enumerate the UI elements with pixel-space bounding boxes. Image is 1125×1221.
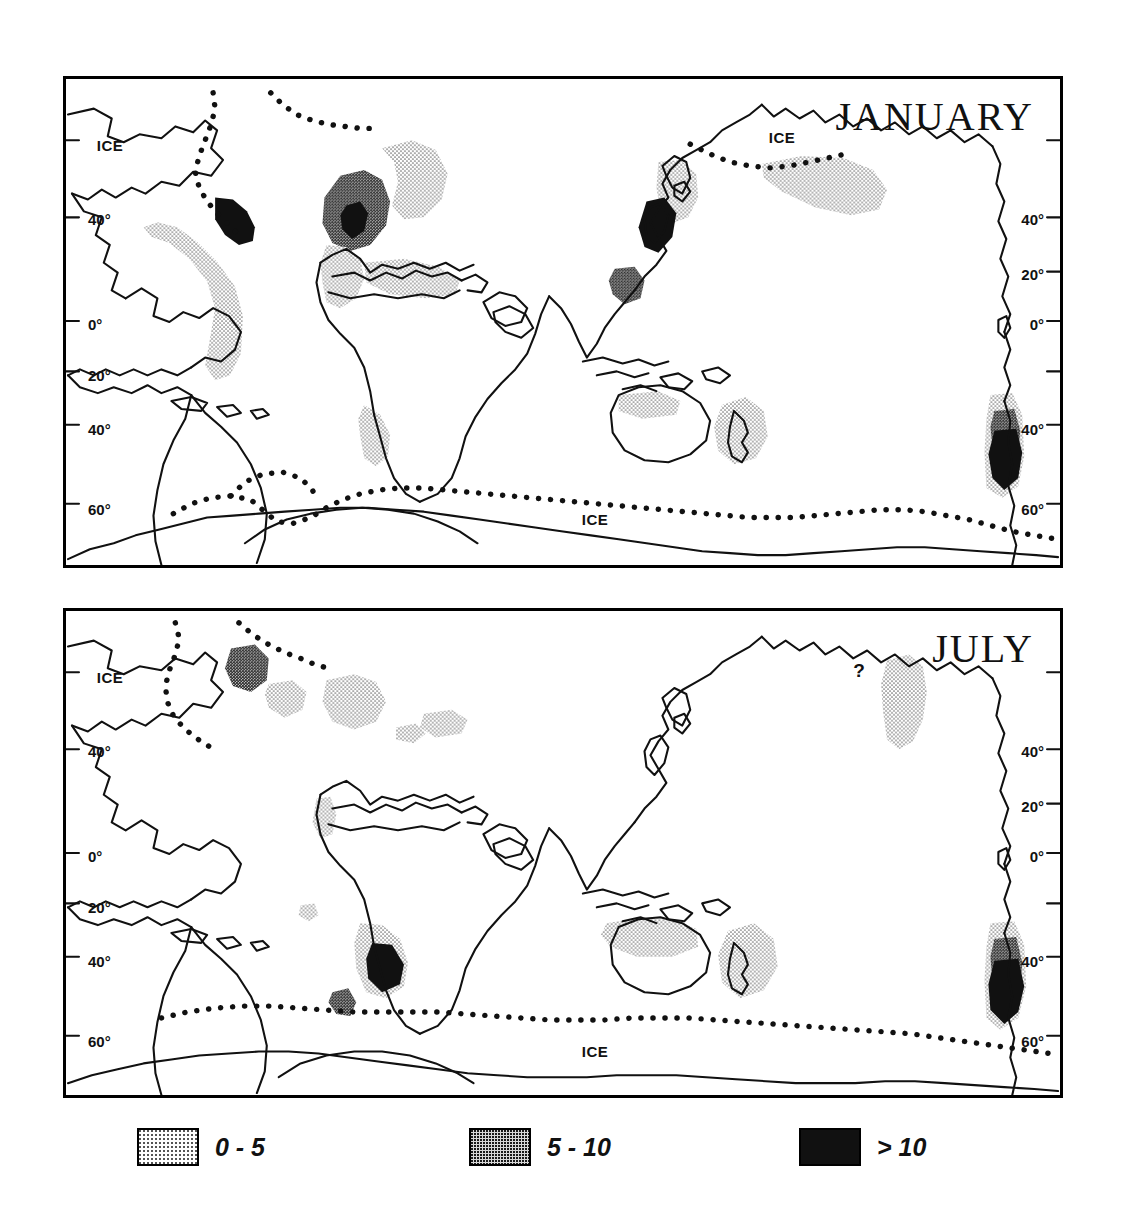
legend-swatch-0-5: [137, 1128, 199, 1166]
lat-label-right-0: 0°: [1030, 848, 1044, 865]
lat-label-left-40n: 40°: [88, 211, 111, 228]
lat-label-right-40n: 40°: [1021, 211, 1044, 228]
uncertainty-question-mark: ?: [853, 660, 865, 682]
lat-label-left-20s: 20°: [88, 367, 111, 384]
lat-label-right-40s: 40°: [1021, 953, 1044, 970]
lat-label-left-40s: 40°: [88, 421, 111, 438]
legend-item-gt-10: > 10: [799, 1128, 926, 1166]
lat-label-right-0: 0°: [1030, 316, 1044, 333]
legend-item-0-5: 0 - 5: [137, 1128, 265, 1166]
lat-label-right-20n: 20°: [1021, 798, 1044, 815]
legend-swatch-5-10: [469, 1128, 531, 1166]
ice-label-arctic-east: ICE: [769, 129, 796, 146]
legend: 0 - 5 5 - 10 > 10: [63, 1128, 1063, 1188]
lat-label-right-60s: 60°: [1021, 501, 1044, 518]
lat-label-left-40s: 40°: [88, 953, 111, 970]
january-map-graphic: [66, 79, 1060, 565]
july-map-graphic: [66, 611, 1060, 1095]
lat-label-right-40n: 40°: [1021, 743, 1044, 760]
lat-label-right-40s: 40°: [1021, 421, 1044, 438]
ice-label-arctic-west: ICE: [97, 137, 124, 154]
legend-label-gt-10: > 10: [877, 1133, 926, 1162]
legend-swatch-gt-10: [799, 1128, 861, 1166]
lat-label-left-20s: 20°: [88, 899, 111, 916]
map-panel-july: JULY: [63, 608, 1063, 1098]
lat-label-left-40n: 40°: [88, 743, 111, 760]
legend-label-5-10: 5 - 10: [547, 1133, 611, 1162]
lat-label-right-60s: 60°: [1021, 1033, 1044, 1050]
figure-root: JANUARY: [0, 0, 1125, 1221]
ice-label-arctic-west: ICE: [97, 669, 124, 686]
ice-label-antarctic: ICE: [582, 1043, 609, 1060]
map-panel-january: JANUARY: [63, 76, 1063, 568]
lat-label-left-0: 0°: [88, 848, 102, 865]
ice-label-antarctic: ICE: [582, 511, 609, 528]
legend-label-0-5: 0 - 5: [215, 1133, 265, 1162]
lat-label-right-20n: 20°: [1021, 266, 1044, 283]
legend-item-5-10: 5 - 10: [469, 1128, 611, 1166]
lat-label-left-0: 0°: [88, 316, 102, 333]
lat-label-left-60s: 60°: [88, 1033, 111, 1050]
lat-label-left-60s: 60°: [88, 501, 111, 518]
